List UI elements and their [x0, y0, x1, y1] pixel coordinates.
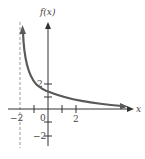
x-tick-label-neg2: −2	[10, 113, 23, 123]
y-axis-arrow-icon	[45, 22, 51, 29]
x-tick-label-zero: 0	[40, 113, 46, 123]
function-graph: x f(x) −2 0 2 2 −2	[0, 0, 145, 159]
y-axis-label: f(x)	[39, 7, 56, 17]
x-axis-label: x	[136, 104, 141, 114]
y-tick-label-neg2: −2	[33, 131, 46, 141]
x-axis-arrow-icon	[127, 106, 134, 112]
function-curve	[23, 32, 122, 106]
x-tick-label-2: 2	[73, 114, 79, 124]
